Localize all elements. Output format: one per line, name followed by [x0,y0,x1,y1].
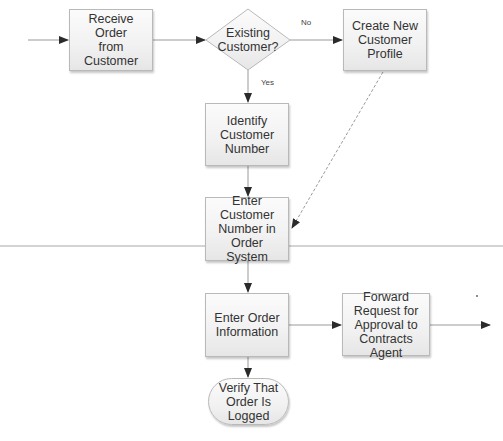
node-label: Verify That Order Is Logged [219,381,279,423]
node-receive-order[interactable]: Receive Order from Customer [69,9,153,71]
node-label: Forward Request for Approval to Contract… [346,290,426,360]
node-label: Enter Customer Number in Order System [209,194,285,264]
node-label: Enter Order Information [214,311,279,339]
node-enter-order-information[interactable]: Enter Order Information [205,293,289,357]
node-verify-order-logged[interactable]: Verify That Order Is Logged [208,378,289,425]
edge-label-no: No [301,18,311,27]
edge-create-to-enter-number [292,72,383,228]
node-identify-customer-number[interactable]: Identify Customer Number [205,103,289,166]
edge-label-yes: Yes [261,78,274,87]
node-label: Receive Order from Customer [73,12,149,68]
flowchart-canvas: Receive Order from Customer Existing Cus… [0,0,503,441]
node-create-customer-profile[interactable]: Create New Customer Profile [343,9,427,71]
node-existing-customer-label[interactable]: Existing Customer? [206,26,290,54]
node-enter-customer-number[interactable]: Enter Customer Number in Order System [205,197,289,261]
stray-dot [476,295,478,297]
node-forward-request[interactable]: Forward Request for Approval to Contract… [342,293,430,356]
node-label: Identify Customer Number [220,114,274,156]
node-label: Create New Customer Profile [352,19,418,61]
